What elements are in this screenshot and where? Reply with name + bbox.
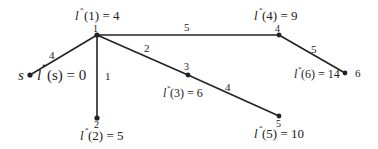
weight-3-5: 4 — [225, 81, 231, 93]
dist-value: (s) = 0 — [47, 67, 86, 84]
dist-l: l — [75, 8, 79, 23]
dist-star: * — [42, 63, 46, 72]
dist-value: (1) = 4 — [84, 8, 120, 23]
dist-value: (2) = 5 — [88, 128, 124, 143]
distance-label-5: l * (5) = 10 — [254, 124, 304, 141]
distance-label-3: l * (3) = 6 — [163, 84, 203, 100]
weight-4-6: 5 — [311, 43, 317, 55]
node-1-number: 1 — [93, 23, 98, 34]
dist-value: (5) = 10 — [262, 126, 304, 141]
graph-diagram: 4 1 2 5 4 5 1 2 3 4 5 6 s l * (s) = 0 l … — [0, 0, 378, 149]
weight-1-4: 5 — [184, 21, 190, 33]
dist-value: (3) = 6 — [170, 86, 203, 100]
distance-label-s: l * (s) = 0 — [37, 63, 86, 84]
node-4-number: 4 — [275, 23, 280, 34]
node-3 — [186, 73, 191, 78]
dist-l: l — [80, 128, 84, 143]
distance-label-1: l * (1) = 4 — [75, 6, 120, 23]
dist-value: (6) = 14 — [301, 67, 340, 81]
node-3-number: 3 — [184, 61, 189, 72]
dist-l: l — [254, 126, 258, 141]
dist-value: (4) = 9 — [262, 8, 298, 23]
node-6 — [343, 71, 348, 76]
distance-label-6: l * (6) = 14 — [294, 65, 340, 81]
weight-s-1: 4 — [49, 49, 55, 61]
edge-1-3 — [97, 35, 188, 75]
distance-label-2: l * (2) = 5 — [80, 126, 124, 143]
weight-1-3: 2 — [144, 42, 150, 54]
distance-label-4: l * (4) = 9 — [254, 6, 298, 23]
dist-l: l — [37, 67, 41, 83]
graph-svg: 4 1 2 5 4 5 1 2 3 4 5 6 s l * (s) = 0 l … — [0, 0, 378, 149]
node-6-number: 6 — [355, 67, 361, 79]
node-s — [27, 72, 32, 77]
dist-l: l — [254, 8, 258, 23]
weight-1-2: 1 — [105, 70, 111, 82]
node-s-name: s — [18, 67, 24, 83]
